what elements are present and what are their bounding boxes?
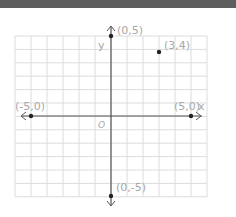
data-point xyxy=(157,50,161,54)
data-point xyxy=(109,194,113,198)
data-points: (0,5)(3,4)(-5,0)(5,0)(0,-5) xyxy=(15,24,200,198)
point-label: (0,-5) xyxy=(116,181,146,194)
y-axis-label: y xyxy=(98,39,105,52)
data-point xyxy=(189,114,193,118)
point-label: (5,0) xyxy=(174,100,200,113)
point-label: (-5,0) xyxy=(15,100,45,113)
coordinate-plane: x y O (0,5)(3,4)(-5,0)(5,0)(0,-5) xyxy=(0,0,236,217)
data-point xyxy=(29,114,33,118)
data-point xyxy=(109,34,113,38)
point-label: (3,4) xyxy=(164,39,190,52)
point-label: (0,5) xyxy=(117,24,143,37)
origin-label: O xyxy=(98,120,105,130)
